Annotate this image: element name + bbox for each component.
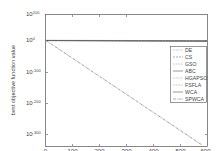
legend-entry-abc: ABC (185, 68, 196, 74)
x-tick-label: 500 (175, 148, 186, 151)
x-tick-labels: 0 100 200 300 400 500 600 (44, 148, 211, 151)
y-tick-label: 10-100 (26, 68, 41, 76)
legend-entry-de: DE (185, 47, 193, 53)
legend-entry-fsfla: FSFLA (185, 82, 202, 88)
y-tick-label: 100 (26, 36, 36, 44)
x-tick-label: 300 (121, 148, 132, 151)
x-tick-label: 100 (67, 148, 78, 151)
y-tick-label: 10-300 (26, 130, 41, 138)
x-tick-label: 0 (44, 148, 48, 151)
x-tick-label: 400 (148, 148, 159, 151)
x-tick-label: 200 (94, 148, 105, 151)
x-tick-label: 600 (200, 148, 211, 151)
legend: DE CS GSO ABC HGAPSO FSFLA WCA SPWCA (171, 47, 208, 103)
legend-entry-hgapso: HGAPSO (185, 75, 207, 81)
y-tick-label: 10100 (26, 10, 40, 18)
y-axis-label: best objective function value (10, 45, 16, 115)
y-tick-label: 10-200 (26, 99, 41, 107)
legend-entry-spwca: SPWCA (185, 96, 205, 102)
y-tick-labels: 10100 100 10-100 10-200 10-300 (26, 10, 41, 138)
legend-entry-cs: CS (185, 54, 193, 60)
chart: 0 100 200 300 400 500 600 10100 100 10-1… (0, 0, 224, 151)
legend-entry-gso: GSO (185, 61, 197, 67)
legend-entry-wca: WCA (185, 89, 198, 95)
